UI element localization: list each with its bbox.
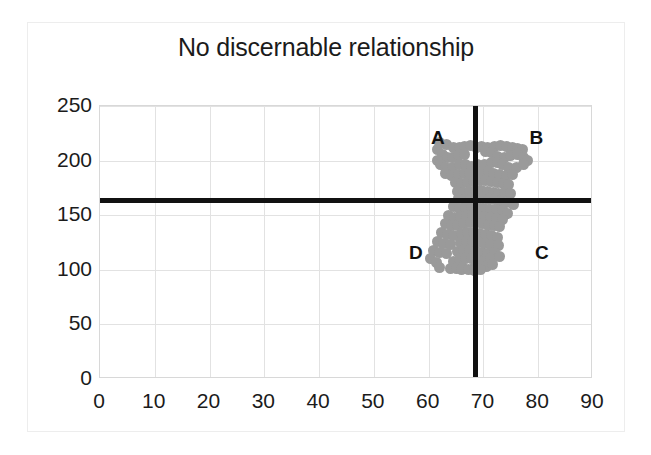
gridline-vertical — [319, 106, 320, 377]
quadrant-label-b: B — [529, 128, 543, 147]
chart-title: No discernable relationship — [27, 33, 625, 62]
gridline-vertical — [429, 106, 430, 377]
x-tick-label: 70 — [452, 390, 512, 411]
gridline-horizontal — [100, 270, 591, 271]
scatter-point — [518, 159, 529, 170]
y-tick-label: 0 — [32, 367, 92, 388]
gridline-horizontal — [100, 215, 591, 216]
horizontal-median-line — [99, 198, 592, 203]
y-axis-tick-labels: 050100150200250 — [28, 105, 92, 378]
gridline-horizontal — [100, 324, 591, 325]
gridline-horizontal — [100, 106, 591, 107]
y-tick-label: 200 — [32, 149, 92, 170]
y-tick-label: 150 — [32, 203, 92, 224]
gridline-vertical — [210, 106, 211, 377]
x-tick-label: 0 — [69, 390, 129, 411]
chart-figure: No discernable relationship 050100150200… — [0, 0, 651, 455]
x-tick-label: 60 — [398, 390, 458, 411]
scatter-point — [487, 259, 498, 270]
x-tick-label: 80 — [507, 390, 567, 411]
gridline-vertical — [264, 106, 265, 377]
x-tick-label: 40 — [288, 390, 348, 411]
x-tick-label: 20 — [179, 390, 239, 411]
gridline-vertical — [374, 106, 375, 377]
scatter-point — [494, 221, 505, 232]
x-tick-label: 50 — [343, 390, 403, 411]
scatter-point — [434, 262, 445, 273]
gridline-vertical — [155, 106, 156, 377]
x-tick-label: 10 — [124, 390, 184, 411]
quadrant-label-a: A — [431, 128, 445, 147]
quadrant-label-d: D — [409, 243, 423, 262]
x-axis-tick-labels: 0102030405060708090 — [99, 390, 592, 420]
y-tick-label: 250 — [32, 94, 92, 115]
vertical-median-line — [473, 105, 478, 378]
y-tick-label: 100 — [32, 258, 92, 279]
quadrant-label-c: C — [535, 243, 549, 262]
scatter-point — [459, 149, 470, 160]
y-tick-label: 50 — [32, 312, 92, 333]
plot-area: ABCD — [99, 105, 592, 378]
x-tick-label: 90 — [562, 390, 622, 411]
x-tick-label: 30 — [233, 390, 293, 411]
